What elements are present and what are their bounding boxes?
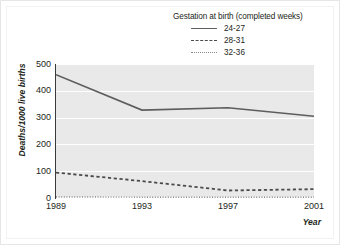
x-axis-title: Year — [273, 217, 321, 227]
x-tick-label: 2001 — [294, 201, 334, 211]
y-axis-title: Deaths/1000 live births — [17, 50, 27, 170]
y-tick-label: 100 — [3, 167, 51, 176]
y-tick-label: 500 — [3, 60, 51, 69]
series-line-28-31 — [56, 173, 314, 191]
x-tick-label: 1993 — [122, 201, 162, 211]
y-tick-label: 400 — [3, 86, 51, 95]
y-tick-label: 300 — [3, 113, 51, 122]
y-tick-label: 200 — [3, 140, 51, 149]
series-line-24-27 — [56, 75, 314, 117]
figure-container: Gestation at birth (completed weeks) 24-… — [0, 0, 340, 245]
x-tick-label: 1989 — [36, 201, 76, 211]
data-series-layer — [56, 64, 314, 198]
x-tick-label: 1997 — [208, 201, 248, 211]
plot-wrapper: 0100200300400500 1989199319972001 Deaths… — [1, 1, 340, 245]
